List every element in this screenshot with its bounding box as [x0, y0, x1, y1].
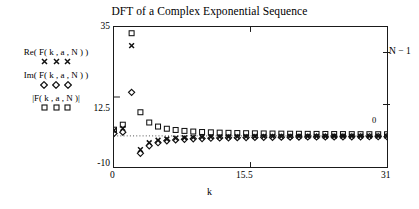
chart-root: DFT of a Complex Exponential Sequence Re…	[0, 0, 419, 209]
data-point	[147, 120, 152, 125]
y-tick-mid: 12.5	[84, 103, 110, 113]
right-annotation-n-minus-1: N − 1	[389, 46, 411, 56]
legend-label-re: Re( F( k , a , N ) )	[8, 47, 104, 57]
x-tick-min: 0	[110, 170, 115, 180]
right-annotation-zero: 0	[372, 115, 376, 125]
y-tick-max: 35	[88, 21, 110, 31]
legend-marker-x-icon	[8, 57, 104, 66]
data-point	[138, 110, 143, 115]
chart-title: DFT of a Complex Exponential Sequence	[0, 5, 419, 17]
plot-area	[113, 26, 388, 168]
data-point	[191, 129, 196, 134]
right-axis-tick-top	[383, 52, 390, 53]
x-axis-label: k	[0, 186, 419, 197]
data-point	[164, 126, 169, 131]
plot-canvas	[114, 27, 387, 167]
data-point	[173, 128, 178, 133]
data-point	[129, 43, 134, 48]
legend-entry-im: Im( F( k , a , N ) )	[8, 70, 104, 89]
data-point	[182, 128, 187, 133]
legend-marker-diamond-icon	[8, 80, 104, 89]
x-tick-mid: 15.5	[236, 170, 253, 180]
y-tick-min: -10	[86, 158, 110, 168]
legend-label-im: Im( F( k , a , N ) )	[8, 70, 104, 80]
series-magnitude	[114, 31, 387, 137]
data-point	[129, 89, 135, 95]
right-axis-tick-mid	[383, 104, 390, 105]
data-point	[208, 130, 213, 135]
x-tick-max: 31	[381, 170, 391, 180]
series-im	[114, 89, 387, 156]
data-point	[129, 31, 134, 36]
legend-entry-re: Re( F( k , a , N ) )	[8, 47, 104, 66]
data-point	[156, 124, 161, 129]
legend-label-mag: |F( k , a , N )|	[8, 93, 104, 103]
data-point	[200, 130, 205, 135]
